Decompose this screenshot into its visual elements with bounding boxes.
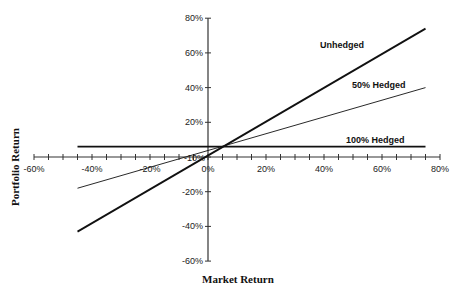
x-tick-label: 80% (431, 164, 449, 174)
x-axis-title: Market Return (202, 273, 274, 285)
x-tick-label: -40% (81, 164, 102, 174)
y-tick-label: 20% (185, 117, 203, 127)
x-tick-label: 60% (373, 164, 391, 174)
label-100-hedged: 100% Hedged (346, 135, 405, 145)
label-50-hedged: 50% Hedged (352, 80, 406, 90)
y-tick-label: 40% (185, 83, 203, 93)
x-tick-label: 20% (257, 164, 275, 174)
series-lines (78, 29, 426, 232)
y-tick-label: -40% (182, 221, 203, 231)
chart-canvas: -60%-40%-20%0%20%40%60%80%80%60%40%20%-2… (0, 0, 461, 299)
y-tick-label: 60% (185, 48, 203, 58)
y-tick-label: -60% (182, 256, 203, 266)
label-unhedged: Unhedged (320, 40, 364, 50)
x-tick-label: -60% (23, 164, 44, 174)
y-axis-title: Portfolio Return (9, 128, 21, 206)
series-line-unhedged (78, 29, 426, 232)
y-tick-label: 80% (185, 13, 203, 23)
y-tick-label: -20% (182, 187, 203, 197)
x-tick-label: 40% (315, 164, 333, 174)
